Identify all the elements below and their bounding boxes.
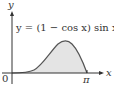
x-axis-label: x — [106, 68, 112, 78]
origin-label: 0 — [2, 74, 8, 84]
plot-area — [0, 0, 114, 93]
y-axis-label: y — [8, 0, 14, 10]
shaded-area — [12, 41, 87, 73]
figure: y y = (1 − cos x) sin x x 0 π — [0, 0, 114, 93]
pi-tick-label: π — [83, 75, 90, 85]
y-axis-arrow-icon — [10, 11, 14, 16]
equation-label: y = (1 − cos x) sin x — [16, 23, 114, 33]
x-axis-arrow-icon — [99, 71, 104, 75]
